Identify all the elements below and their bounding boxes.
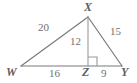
vertex-label-x: X xyxy=(84,1,92,13)
vertex-label-z: Z xyxy=(82,66,89,78)
vertex-label-w: W xyxy=(6,66,17,78)
length-label-wx: 20 xyxy=(38,22,49,33)
length-label-xy: 15 xyxy=(110,26,121,37)
vertex-label-y: Y xyxy=(121,66,128,78)
geometry-figure: X W Z Y 20 15 12 16 9 xyxy=(0,0,137,83)
triangle-svg xyxy=(0,0,137,83)
length-label-zy: 9 xyxy=(101,68,107,79)
right-angle-marker-icon xyxy=(88,57,97,66)
length-label-xz: 12 xyxy=(70,36,81,47)
length-label-wz: 16 xyxy=(49,68,60,79)
